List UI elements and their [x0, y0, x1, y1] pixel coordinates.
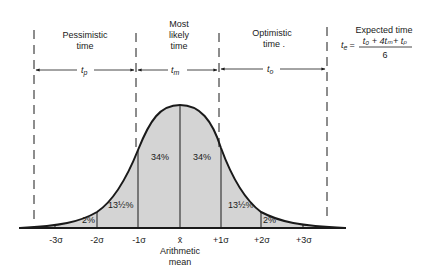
- tick-plus-2-sigma: +2σ: [254, 235, 270, 245]
- pct-34-left: 34%: [151, 152, 169, 162]
- pct-13-right: 13½%: [228, 200, 254, 210]
- header-pessimistic: Pessimistictime: [62, 30, 108, 51]
- formula-denominator: 6: [382, 50, 387, 60]
- tick-mean: x̄: [178, 235, 183, 245]
- pct-2-left: 2%: [82, 215, 95, 225]
- formula-numerator: t₀ + 4tₘ+ tₚ: [363, 36, 407, 46]
- header-optimistic: Optimistictime .: [252, 28, 292, 49]
- pert-normal-distribution-diagram: tp tm to Pessimistictime Mostlikelytime …: [0, 0, 432, 273]
- header-expected: Expected time: [355, 25, 412, 35]
- header-most-likely: Mostlikelytime: [169, 19, 190, 51]
- distribution-area: [30, 105, 335, 228]
- tick-minus-2-sigma: -2σ: [90, 235, 104, 245]
- pct-34-right: 34%: [193, 152, 211, 162]
- tick-minus-3-sigma: -3σ: [49, 235, 63, 245]
- tick-plus-1-sigma: +1σ: [213, 235, 229, 245]
- tick-minus-1-sigma: -1σ: [132, 235, 146, 245]
- mean-label: Arithmeticmean: [160, 246, 201, 267]
- tp-label: tp: [81, 65, 88, 77]
- pct-2-right: 2%: [263, 215, 276, 225]
- tm-label: tm: [171, 65, 180, 76]
- to-label: to: [267, 64, 274, 75]
- tick-plus-3-sigma: +3σ: [296, 235, 312, 245]
- formula-lhs: te=: [341, 40, 355, 51]
- pct-13-left: 13½%: [108, 200, 134, 210]
